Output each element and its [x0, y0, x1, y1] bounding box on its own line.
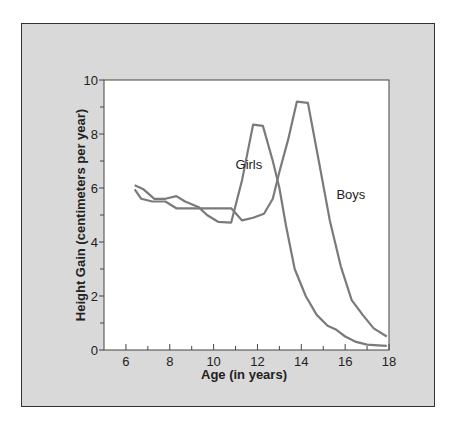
x-tick-label: 14 [294, 354, 308, 369]
x-tick-label: 8 [166, 354, 173, 369]
y-axis-title: Height Gain (centimeters per year) [73, 109, 88, 321]
x-axis-title: Age (in years) [201, 367, 287, 382]
plot-area [104, 80, 389, 350]
y-tick-label: 8 [91, 127, 98, 142]
x-tick-label: 16 [338, 354, 352, 369]
x-tick-label: 6 [122, 354, 129, 369]
y-tick-label: 2 [91, 289, 98, 304]
x-tick-label: 18 [382, 354, 396, 369]
series-label-girls: Girls [236, 157, 263, 172]
line-chart: 6810121416180246810 GirlsBoys Age (in ye… [0, 0, 456, 429]
y-tick-label: 0 [91, 343, 98, 358]
y-tick-label: 6 [91, 181, 98, 196]
series-label-boys: Boys [336, 187, 365, 202]
y-tick-label: 10 [84, 73, 98, 88]
y-tick-label: 4 [91, 235, 98, 250]
